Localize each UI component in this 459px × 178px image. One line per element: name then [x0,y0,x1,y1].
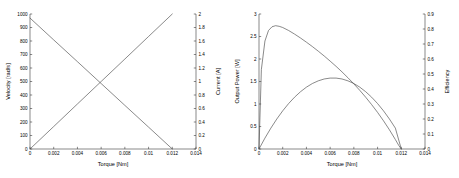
y2-tick-label: 0 [198,147,201,152]
y-tick-label: 1.5 [250,79,257,84]
y2-tick-label: 0.2 [427,117,434,122]
y2-tick-label: 0.5 [427,72,434,77]
y2-tick-label: 1 [198,79,201,84]
x-tick-label: 0.006 [324,151,336,156]
left-bottom-spine [30,14,196,149]
y2-axis-title: Current [A] [215,68,221,95]
y2-tick-label: 1.4 [198,52,205,57]
left-bottom-spine [259,14,425,149]
x-axis-title: Torque [Nm] [98,161,129,167]
y2-tick-label: 0.6 [198,106,205,111]
axes-right [259,14,425,149]
y-tick-label: 500 [20,79,28,84]
y-tick-label: 0.5 [250,124,257,129]
x-tick-label: 0.01 [373,151,382,156]
x-tick-label: 0.014 [190,151,202,156]
y-tick-label: 0 [25,147,28,152]
y-tick-label: 400 [20,93,28,98]
x-tick-label: 0.002 [48,151,60,156]
y2-tick-label: 0.6 [427,57,434,62]
series-output-power [259,78,401,149]
x-tick-label: 0.004 [72,151,84,156]
y-axis-title: Velocity [rad/s] [5,63,11,100]
x-axis-title: Torque [Nm] [327,161,358,167]
x-tick-label: 0.006 [95,151,107,156]
y-tick-label: 2.5 [250,34,257,39]
x-tick-label: 0 [258,151,261,156]
y-axis-title: Output Power [W] [234,59,240,104]
y2-tick-label: 1.8 [198,25,205,30]
y-tick-label: 2 [254,57,257,62]
y-tick-label: 200 [20,120,28,125]
y2-tick-label: 1.6 [198,39,205,44]
y-tick-label: 600 [20,66,28,71]
y-tick-label: 900 [20,25,28,30]
x-tick-label: 0.01 [144,151,153,156]
y2-tick-label: 0.8 [427,27,434,32]
x-tick-label: 0.012 [396,151,408,156]
power-efficiency-plot: 00.0020.0040.0060.0080.010.0120.01400.51… [229,0,458,178]
y-tick-label: 700 [20,52,28,57]
data-left [30,14,172,149]
y-tick-label: 1000 [17,12,28,17]
x-tick-label: 0.014 [419,151,431,156]
velocity-current-plot: 00.0020.0040.0060.0080.010.0120.01401002… [0,0,229,178]
labels-left: 00.0020.0040.0060.0080.010.0120.01401002… [5,12,221,167]
axes-left [30,14,196,149]
y2-tick-label: 1.2 [198,66,205,71]
x-tick-label: 0.008 [348,151,360,156]
x-tick-label: 0 [29,151,32,156]
y-tick-label: 3 [254,12,257,17]
y-tick-label: 100 [20,133,28,138]
figure-canvas: 00.0020.0040.0060.0080.010.0120.01401002… [0,0,459,178]
x-tick-label: 0.004 [301,151,313,156]
labels-right: 00.0020.0040.0060.0080.010.0120.01400.51… [234,12,450,167]
y2-tick-label: 0.3 [427,102,434,107]
y2-tick-label: 0.4 [427,87,434,92]
y2-tick-label: 0.8 [198,93,205,98]
series-efficiency [259,26,401,149]
y2-tick-label: 0.1 [427,132,434,137]
x-tick-label: 0.012 [167,151,179,156]
x-tick-label: 0.008 [119,151,131,156]
y2-tick-label: 0.9 [427,12,434,17]
y2-axis-title: Efficiency [444,69,450,93]
y2-tick-label: 0.4 [198,120,205,125]
y2-tick-label: 2 [198,12,201,17]
series-velocity [30,18,172,149]
y-tick-label: 1 [254,102,257,107]
y-tick-label: 300 [20,106,28,111]
y2-tick-label: 0.2 [198,133,205,138]
series-current [30,14,172,149]
chart-panel-power-efficiency: 00.0020.0040.0060.0080.010.0120.01400.51… [229,0,458,178]
y-tick-label: 0 [254,147,257,152]
y-tick-label: 800 [20,39,28,44]
chart-panel-velocity-current: 00.0020.0040.0060.0080.010.0120.01401002… [0,0,229,178]
y2-tick-label: 0.7 [427,42,434,47]
data-right [259,26,401,149]
y2-tick-label: 0 [427,147,430,152]
x-tick-label: 0.002 [277,151,289,156]
